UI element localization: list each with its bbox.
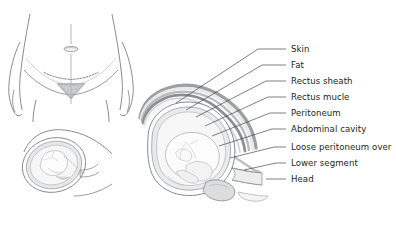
label-fat: Fat (291, 60, 305, 70)
label-skin: Skin (291, 44, 309, 54)
label-head: Head (291, 174, 314, 184)
caesarean-section-diagram: Skin Fat Rectus sheath Rectus mucle Peri… (0, 0, 396, 230)
label-loose-peritoneum: Loose peritoneum over (291, 142, 392, 152)
label-rectus-sheath: Rectus sheath (291, 76, 353, 86)
label-lower-segment: Lower segment (291, 158, 358, 168)
label-peritoneum: Peritoneum (291, 108, 341, 118)
label-rectus-muscle: Rectus mucle (291, 92, 349, 102)
label-abdominal-cavity: Abdominal cavity (291, 124, 366, 134)
navel (64, 46, 78, 51)
